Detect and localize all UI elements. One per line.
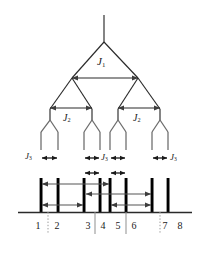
peak-4 — [99, 178, 102, 212]
peak-5 — [109, 178, 112, 212]
peak-2 — [57, 178, 60, 212]
peak-8 — [167, 178, 170, 212]
tree-branch-l2-d — [138, 78, 160, 109]
peak-1 — [40, 178, 43, 212]
tree-branch-l2-a — [50, 78, 72, 109]
caption-strip — [0, 242, 207, 258]
tree-branch-l1-left — [72, 42, 104, 78]
peak-6 — [125, 178, 128, 212]
nmr-splitting-tree-figure: J1 J2 J2 J3 J3 J3 1 2 3 4 5 6 7 8 — [0, 0, 207, 258]
tree-branch-l2-c — [118, 78, 138, 109]
peak-3 — [83, 178, 86, 212]
tree-branch-l1-right — [104, 42, 138, 78]
splitting-tree-canvas — [0, 0, 207, 258]
peak-7 — [151, 178, 154, 212]
tree-lines — [50, 15, 160, 120]
tree-lines-level3 — [41, 120, 168, 150]
tree-branch-l2-b — [72, 78, 92, 109]
peak-guide-lines — [48, 212, 160, 234]
tree-measure-arrows — [50, 78, 160, 108]
spectrum-peaks — [40, 178, 170, 212]
